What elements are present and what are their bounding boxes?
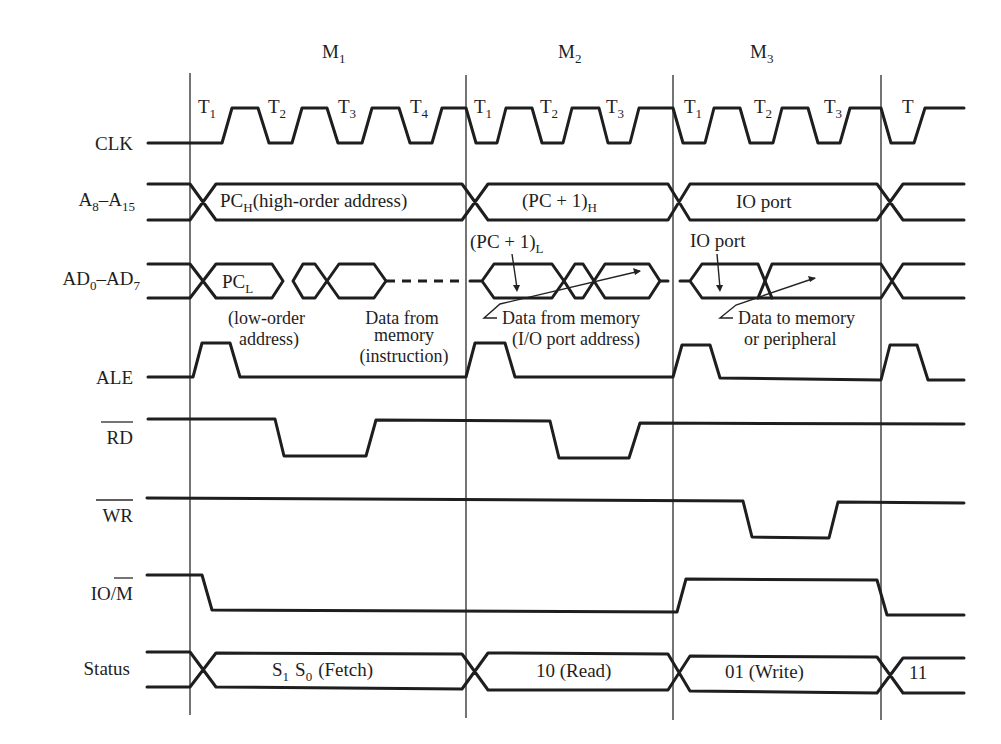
ale-signal-name: ALE (96, 367, 133, 388)
status-m1-value: S1S0(Fetch) (272, 659, 373, 684)
note-data-m2-2: (I/O port address) (512, 329, 640, 350)
signal-names: CLK A8–A15 AD0–AD7 ALE RD WR IO/M Status (63, 133, 141, 679)
bus-annotations: (low-order address) Data from memory (in… (228, 308, 855, 367)
status-next-value: 11 (909, 662, 927, 683)
a8-a15-bus: PCH(high-order address) (PC + 1)H IO por… (148, 184, 964, 220)
a8-m1-value: PCH(high-order address) (220, 190, 407, 215)
t-state-label: T (902, 96, 914, 117)
ad-m3-address-label: IO port (690, 230, 746, 251)
t-state-label: T3 (606, 96, 624, 121)
a8-m2-value: (PC + 1)H (522, 190, 597, 215)
t-state-label: T1 (684, 96, 702, 121)
cycle-dividers (190, 73, 881, 720)
wr-signal-name: WR (102, 505, 133, 526)
status-bus: S1S0(Fetch) 10 (Read) 01 (Write) 11 (147, 652, 964, 693)
note-data-m3-1: Data to memory (738, 308, 855, 328)
io-m-signal-name: IO/M (91, 583, 133, 604)
m1-label: M1 (322, 41, 345, 66)
note-low-order-2: address) (239, 329, 299, 350)
note-data-m3-2: or peripheral (744, 329, 836, 349)
t-state-label: T1 (474, 96, 492, 121)
status-signal-name: Status (84, 658, 130, 679)
t-state-label: T3 (338, 96, 356, 121)
t-state-label: T4 (410, 96, 429, 121)
io-m-waveform (147, 575, 964, 615)
t-state-label: T1 (198, 96, 216, 121)
t-state-label: T3 (824, 96, 842, 121)
status-m3-value: 01 (Write) (725, 661, 804, 683)
rd-signal-name: RD (107, 427, 133, 448)
a8-a15-signal-name: A8–A15 (79, 189, 135, 214)
ad0-ad7-bus: PCL (PC + 1)L IO port (148, 230, 964, 318)
t-state-label: T2 (540, 96, 558, 121)
t-state-label: T2 (268, 96, 286, 121)
note-data-m1-3: (instruction) (360, 346, 449, 367)
note-low-order-1: (low-order (228, 308, 305, 329)
m2-label: M2 (558, 41, 581, 66)
m3-label: M3 (750, 41, 773, 66)
a8-m3-value: IO port (736, 191, 792, 212)
t-state-label: T2 (754, 96, 772, 121)
note-data-m1-2: memory (374, 325, 434, 345)
wr-waveform (147, 498, 964, 538)
ad-m2-address-label: (PC + 1)L (470, 231, 544, 256)
ad0-ad7-signal-name: AD0–AD7 (63, 268, 141, 293)
ad-m1-value: PCL (222, 271, 253, 296)
timing-diagram: M1 M2 M3 T1 T2 T3 T4 T1 T2 T3 T1 T2 T3 T… (0, 0, 1001, 744)
machine-cycle-headers: M1 M2 M3 (322, 41, 773, 66)
clk-signal-name: CLK (95, 133, 133, 154)
rd-waveform (148, 419, 964, 458)
status-m2-value: 10 (Read) (536, 660, 611, 682)
note-data-m2-1: Data from memory (502, 308, 640, 328)
